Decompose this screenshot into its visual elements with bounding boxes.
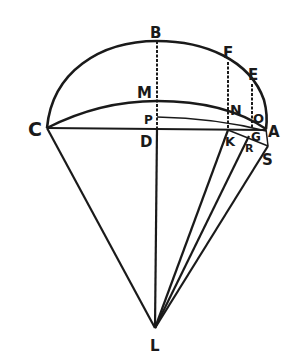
label-N: N xyxy=(230,102,242,118)
label-L: L xyxy=(150,337,160,355)
ray-RL xyxy=(155,136,249,328)
label-A: A xyxy=(268,123,280,141)
label-B: B xyxy=(150,24,161,42)
geometric-diagram: B F E M N O C P A D K G R S L xyxy=(0,0,306,361)
ray-CL xyxy=(47,128,155,328)
label-O: O xyxy=(253,111,264,126)
label-P: P xyxy=(144,113,153,127)
label-F: F xyxy=(223,44,233,62)
label-R: R xyxy=(245,142,254,155)
label-D: D xyxy=(140,133,152,151)
label-S: S xyxy=(262,151,273,169)
label-K: K xyxy=(225,134,236,149)
label-E: E xyxy=(248,66,258,84)
label-C: C xyxy=(28,118,42,140)
ray-DL xyxy=(155,129,157,328)
label-M: M xyxy=(137,84,152,102)
